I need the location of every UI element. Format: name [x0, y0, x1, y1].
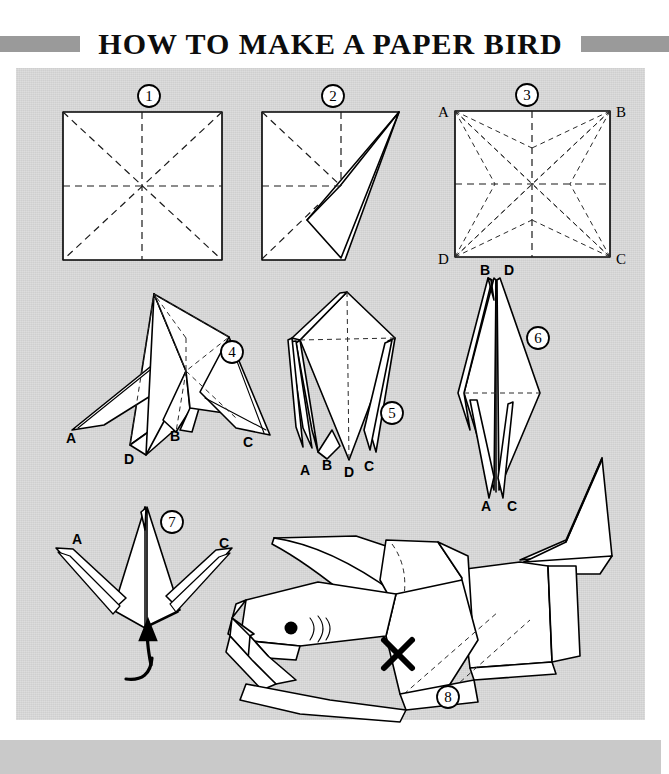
step-4-label-D: D: [124, 451, 134, 467]
step-6-number: 6: [534, 330, 542, 346]
step-2-marker: 2: [322, 85, 344, 107]
step-6-label-D: D: [504, 262, 514, 278]
step-5-label-D: D: [344, 464, 354, 480]
step-4-label-A: A: [66, 430, 76, 446]
step-3-number: 3: [523, 87, 531, 103]
step-5-marker: 5: [381, 402, 403, 424]
step-1-marker: 1: [138, 85, 160, 107]
step-3-label-A: A: [438, 104, 449, 120]
step-1-figure: 1: [63, 85, 222, 260]
step-6-label-A: A: [481, 498, 491, 514]
step-3-marker: 3: [516, 84, 538, 106]
step-4-figure: A B C D 4: [66, 294, 270, 467]
step-2-number: 2: [329, 88, 337, 104]
step-4-label-B: B: [170, 428, 180, 444]
step-7-number: 7: [168, 514, 176, 530]
step-6-label-C: C: [507, 498, 517, 514]
step-7-label-A: A: [72, 531, 82, 547]
step-4-label-C: C: [243, 434, 253, 450]
step-4-marker: 4: [221, 341, 243, 363]
step-7-label-C: C: [219, 535, 229, 551]
step-6-figure: B D A C 6: [458, 262, 549, 514]
step-7-arrow: [126, 658, 152, 679]
step-5-label-B: B: [322, 457, 332, 473]
step-5-label-C: C: [364, 458, 374, 474]
step-3-label-C: C: [616, 251, 626, 267]
step-3-label-D: D: [438, 251, 449, 267]
step-6-marker: 6: [527, 327, 549, 349]
step-6-label-B: B: [480, 262, 490, 278]
step-8-number: 8: [444, 689, 452, 705]
step-7-marker: 7: [161, 511, 183, 533]
step-7-figure: A C 7: [56, 507, 232, 679]
step-4-number: 4: [228, 344, 236, 360]
bird-eye: [285, 622, 298, 635]
step-8-marker: 8: [437, 686, 459, 708]
step-1-number: 1: [145, 88, 153, 104]
step-5-number: 5: [388, 405, 396, 421]
step-3-figure: A B C D 3: [438, 84, 626, 267]
step-5-figure: A B D C 5: [288, 292, 403, 480]
bird-head: [240, 582, 396, 646]
step-2-figure: 2: [262, 85, 399, 260]
step-8-figure: 8: [226, 458, 612, 722]
step-5-label-A: A: [300, 462, 310, 478]
step-3-label-B: B: [616, 104, 626, 120]
